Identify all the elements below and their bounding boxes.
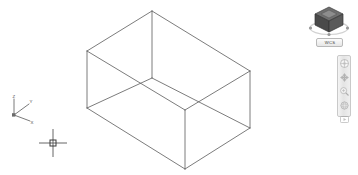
edge-bottom-left-front bbox=[87, 108, 185, 169]
view-cube-compass-east-nub bbox=[346, 26, 349, 29]
edge-top-back-left bbox=[87, 11, 152, 51]
view-cube-compass-west-nub bbox=[309, 26, 312, 29]
edge-bottom-back-right bbox=[152, 78, 250, 128]
navigation-bar[interactable] bbox=[337, 55, 351, 117]
showmotion-icon[interactable] bbox=[339, 114, 350, 125]
orbit-icon[interactable] bbox=[339, 100, 350, 111]
edge-bottom-right-front bbox=[185, 128, 250, 169]
view-cube-compass-south-nub bbox=[327, 33, 330, 36]
edge-bottom-back-left bbox=[87, 78, 152, 108]
wcs-dropdown-label: WCS bbox=[324, 40, 334, 45]
ucs-axis-x-line bbox=[14, 115, 30, 121]
view-cube-widget[interactable]: WCS bbox=[304, 2, 354, 52]
ucs-axis-y-line bbox=[14, 104, 29, 115]
pan-icon[interactable] bbox=[339, 72, 350, 83]
edge-top-back-right bbox=[152, 11, 250, 71]
view-cube-icon[interactable] bbox=[304, 2, 354, 40]
ucs-axis-x-label: X bbox=[31, 120, 34, 125]
zoom-extents-icon[interactable] bbox=[339, 86, 350, 97]
steering-wheel-icon[interactable] bbox=[339, 58, 350, 69]
ucs-origin-marker bbox=[12, 113, 15, 116]
ucs-axis-y-label: Y bbox=[30, 99, 33, 104]
ucs-axis-icon[interactable]: Z Y X bbox=[8, 94, 42, 126]
crosshair-cursor bbox=[38, 128, 68, 158]
cad-application-window: Z Y X bbox=[0, 0, 358, 175]
ucs-axis-z-label: Z bbox=[13, 94, 16, 99]
wcs-dropdown-button[interactable]: WCS bbox=[316, 38, 343, 47]
edge-top-right-front bbox=[185, 71, 250, 110]
